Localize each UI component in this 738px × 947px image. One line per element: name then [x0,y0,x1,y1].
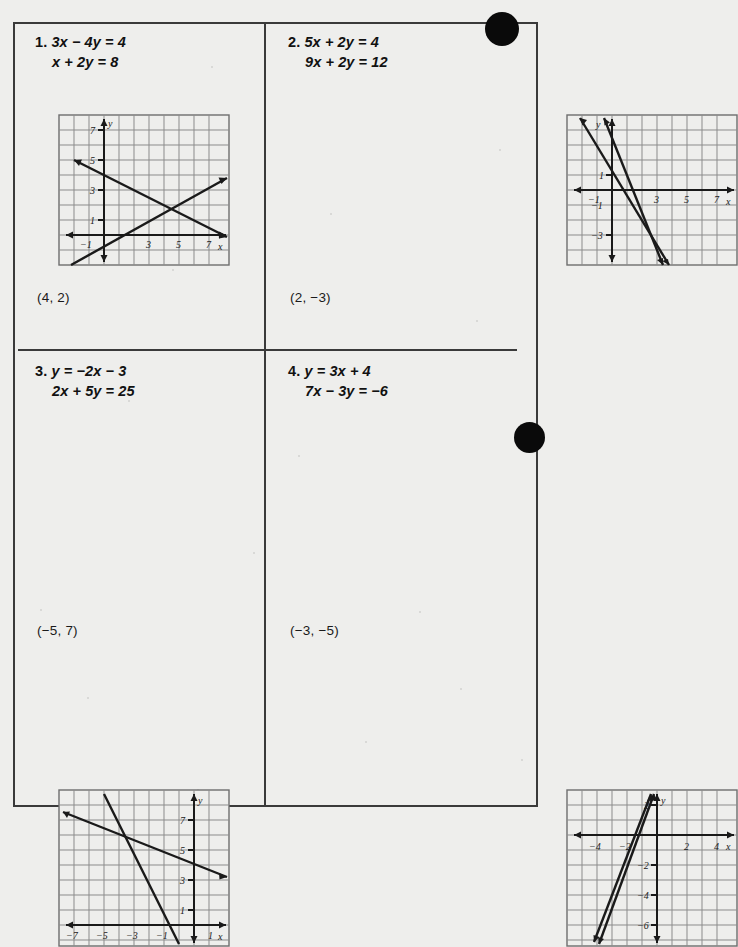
graph-2-ytick-neg3: −3 [591,230,603,241]
graph-2-xtick-3: 3 [653,194,659,205]
graph-3-ytick-5: 5 [180,845,185,856]
graph-problem-2: y x 1 −1 −3 −1 3 5 7 [566,114,738,266]
problem-4-equation-1: y = 3x + 4 [304,363,370,379]
graph-3-xtick-neg7: −7 [66,930,79,941]
graph-1-xtick-5: 5 [176,239,181,250]
graph-4-xtick-neg4: −4 [589,841,601,852]
problem-2-line-1: 2. 5x + 2y = 4 [288,32,388,52]
graph-3-ytick-1: 1 [180,905,185,916]
graph-4-ytick-neg6: −6 [637,920,649,931]
problem-3-answer: (−5, 7) [37,623,78,638]
problem-3-equation-1: y = −2x − 3 [51,363,126,379]
graph-2-xtick-neg1: −1 [588,194,600,205]
graph-4-x-label: x [725,841,731,852]
graph-4-xtick-4: 4 [714,841,719,852]
graph-3-ytick-3: 3 [179,875,185,886]
problem-cell-1: 1. 3x − 4y = 4 x + 2y = 8 [13,22,264,349]
problem-4-number: 4. [288,363,300,379]
graph-1-ytick-1: 1 [90,215,95,226]
graph-4-xtick-2: 2 [684,841,689,852]
hole-punch-bottom [514,422,545,453]
graph-4-y-label: y [660,795,666,806]
graph-1-y-label: y [107,118,113,129]
graph-1-xtick-3: 3 [145,239,151,250]
graph-2-y-label: y [595,119,601,130]
graph-2-x-label: x [725,196,731,207]
problem-3-equations: 3. y = −2x − 3 2x + 5y = 25 [35,361,135,401]
problem-3-line-1: 3. y = −2x − 3 [35,361,135,381]
graph-problem-4: y x 2 −2 −4 −6 −4 −2 2 4 [566,789,738,947]
graph-4-ytick-neg2: −2 [637,860,649,871]
problem-1-equation-1: 3x − 4y = 4 [51,34,125,50]
graph-2-xtick-5: 5 [684,194,689,205]
problem-cell-3: 3. y = −2x − 3 2x + 5y = 25 [13,351,264,807]
problem-3-number: 3. [35,363,47,379]
problem-2-equation-1: 5x + 2y = 4 [304,34,378,50]
graph-1-ytick-5: 5 [90,155,95,166]
graph-4-ytick-2: 2 [644,800,649,811]
graph-problem-3: y x 1 3 5 7 −7 −5 −3 −1 1 [58,789,230,947]
graph-1-x-label: x [217,241,223,252]
graph-problem-1: y x 1 3 5 7 −1 3 5 7 [58,114,230,266]
problem-cell-4: 4. y = 3x + 4 7x − 3y = −6 [266,351,538,807]
problem-1-line-1: 1. 3x − 4y = 4 [35,32,126,52]
problem-4-answer: (−3, −5) [290,623,339,638]
problem-4-equation-2: 7x − 3y = −6 [288,381,388,401]
graph-1-ytick-3: 3 [89,185,95,196]
graph-2-ytick-1: 1 [599,170,604,181]
graph-3-xtick-neg3: −3 [126,930,138,941]
problem-3-equation-2: 2x + 5y = 25 [35,381,135,401]
problem-2-equation-2: 9x + 2y = 12 [288,52,388,72]
graph-4-xtick-neg2: −2 [619,841,631,852]
problem-2-number: 2. [288,34,300,50]
graph-3-xtick-neg5: −5 [96,930,108,941]
problem-2-answer: (2, −3) [290,290,331,305]
graph-3-xtick-neg1: −1 [156,930,168,941]
problem-2-equations: 2. 5x + 2y = 4 9x + 2y = 12 [288,32,388,72]
graph-3-y-label: y [197,795,203,806]
hole-punch-top [485,12,519,46]
problem-4-equations: 4. y = 3x + 4 7x − 3y = −6 [288,361,388,401]
graph-3-xtick-1: 1 [208,930,213,941]
graph-4-ytick-neg4: −4 [637,890,649,901]
problem-4-line-1: 4. y = 3x + 4 [288,361,388,381]
problem-1-equations: 1. 3x − 4y = 4 x + 2y = 8 [35,32,126,72]
problem-1-equation-2: x + 2y = 8 [35,52,126,72]
problem-cell-2: 2. 5x + 2y = 4 9x + 2y = 12 [266,22,538,349]
graph-1-xtick-neg1: −1 [80,239,92,250]
problem-1-number: 1. [35,34,47,50]
graph-3-x-label: x [217,931,223,942]
problem-1-answer: (4, 2) [37,290,70,305]
